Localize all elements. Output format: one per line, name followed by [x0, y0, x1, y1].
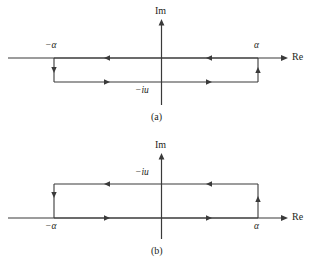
contour-arrow-top-left-a: [104, 55, 110, 60]
imaginary-axis-label-b: Im: [155, 140, 166, 150]
contour-arrow-left-down-b: [51, 192, 56, 198]
contour-arrow-bottom-right-a: [206, 79, 212, 84]
contour-arrow-top-right-a: [206, 55, 212, 60]
contour-arrow-bottom-left-b: [104, 215, 110, 220]
contour-rectangle-b: [54, 184, 258, 218]
panel-caption-b: (b): [151, 246, 163, 256]
panel-b: Im Re −α α −iu (b): [0, 134, 323, 268]
contour-arrow-right-up-b: [255, 196, 260, 202]
real-axis-label-a: Re: [292, 52, 303, 62]
contour-arrow-bottom-right-b: [206, 215, 212, 220]
depth-label-b: −iu: [135, 168, 149, 178]
real-axis-label-b: Re: [292, 212, 303, 222]
contour-arrow-right-up-a: [255, 67, 260, 73]
imaginary-axis-a: [159, 19, 165, 105]
imaginary-axis-label-a: Im: [155, 6, 166, 16]
depth-label-a: −iu: [135, 86, 149, 96]
right-endpoint-label-b: α: [254, 222, 259, 232]
left-endpoint-label-b: −α: [45, 222, 56, 232]
panel-a: Im Re −α α −iu (a): [0, 0, 323, 134]
complex-plane-contour-figure: Im Re −α α −iu (a): [0, 0, 323, 268]
contour-arrow-bottom-left-a: [104, 79, 110, 84]
right-endpoint-label-a: α: [254, 41, 259, 51]
contour-arrow-left-down-a: [51, 67, 56, 73]
contour-rectangle-a: [54, 58, 258, 82]
left-endpoint-label-a: −α: [45, 41, 56, 51]
panel-caption-a: (a): [151, 112, 162, 122]
contour-arrow-top-right-b: [206, 181, 212, 186]
imaginary-axis-b: [159, 153, 165, 239]
contour-arrow-top-left-b: [104, 181, 110, 186]
